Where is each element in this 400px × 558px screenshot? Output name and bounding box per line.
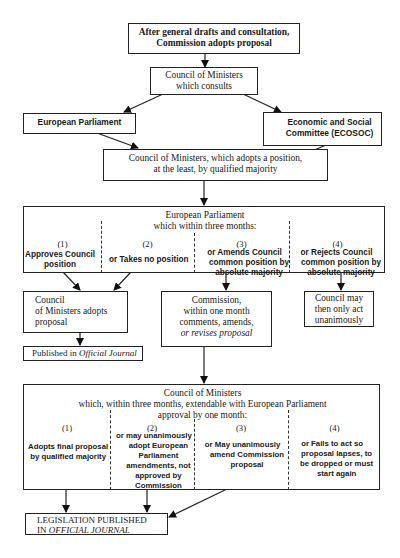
node-text: which consults: [151, 81, 257, 92]
option-text: or Takes no position: [109, 255, 188, 265]
node-text: then only act: [305, 304, 373, 315]
node-text: within one month: [162, 306, 271, 317]
council-review-title: Council of Ministers: [24, 388, 381, 398]
node-text: Committee (ECOSOC): [278, 128, 381, 139]
node-text: or revises proposal: [162, 328, 271, 339]
option-text: or Fails to act so proposal lapses, to b…: [291, 439, 373, 479]
option-number: (2): [101, 239, 194, 250]
node-legislation-published: LEGISLATION PUBLISHED IN OFFICIAL JOURNA…: [25, 513, 168, 535]
node-council-review: Council of Ministers which, within three…: [23, 384, 380, 490]
node-council-unanimous: Council may then only act unanimously: [304, 291, 374, 327]
node-published-official-journal: Published in Official Journal: [23, 346, 143, 361]
node-european-parliament: European Parliament: [23, 113, 136, 134]
ep-review-title: European Parliament: [24, 210, 386, 220]
node-ep-review: European Parliament which within three m…: [23, 206, 385, 273]
node-text-italic: OFFICIAL JOURNAL: [49, 525, 130, 535]
node-council-adopts-proposal: Council of Ministers adopts proposal: [23, 291, 128, 333]
node-text: Published in: [32, 348, 79, 358]
option-divider: [110, 410, 111, 490]
option-number: (3): [194, 423, 288, 434]
council-review-subtitle: approval by one month:: [24, 410, 381, 420]
option-text: Approves Council position: [25, 250, 95, 270]
node-text: LEGISLATION PUBLISHED: [37, 515, 167, 525]
council-review-subtitle: which, within three months, extendable w…: [24, 399, 381, 409]
ep-review-subtitle: which within three months:: [24, 221, 386, 231]
node-text: Economic and Social: [278, 117, 381, 128]
node-council-adopts-position: Council of Ministers, which adopts a pos…: [103, 149, 328, 181]
node-ecosoc: Economic and Social Committee (ECOSOC): [263, 112, 382, 146]
node-text-italic: Official Journal: [79, 348, 137, 358]
node-text: at the least, by qualified majority: [104, 164, 327, 175]
node-commission-adopts-proposal: After general drafts and consultation, C…: [128, 23, 300, 54]
node-council-consults: Council of Ministers which consults: [150, 67, 258, 95]
node-text: Council may: [305, 293, 373, 304]
option-number: (1): [24, 239, 101, 250]
option-text: or Rejects Council common position by ab…: [292, 248, 381, 278]
option-divider: [288, 410, 289, 490]
node-text: After general drafts and consultation,: [129, 27, 299, 38]
node-text: Council of Ministers: [151, 70, 257, 81]
option-text: or Amends Council common position by abs…: [200, 248, 289, 278]
option-text: or May unanimously amend Commission prop…: [201, 440, 284, 470]
option-text: or may unanimously adopt European Parlia…: [116, 431, 192, 491]
node-text: Commission,: [162, 295, 271, 306]
option-text: Adopts final proposal by qualified major…: [28, 442, 108, 462]
node-commission-revises: Commission, within one month comments, a…: [161, 291, 272, 347]
node-text: Council of Ministers, which adopts a pos…: [104, 153, 327, 164]
node-text: IN: [37, 525, 49, 535]
node-text: comments, amends,: [162, 317, 271, 328]
node-text: Council: [35, 295, 127, 306]
node-text: Commission adopts proposal: [129, 38, 299, 49]
node-text: European Parliament: [24, 117, 135, 128]
node-text: of Ministers adopts: [35, 306, 127, 317]
node-text: unanimously: [305, 315, 373, 326]
option-number: (4): [288, 423, 381, 434]
node-text: proposal: [35, 317, 127, 328]
option-number: (1): [24, 423, 110, 434]
